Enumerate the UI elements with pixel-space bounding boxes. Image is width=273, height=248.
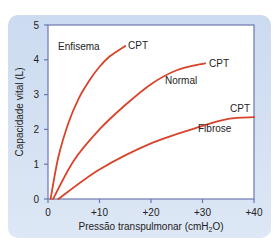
- y-axis: 012345: [33, 20, 48, 205]
- y-tick-label: 5: [33, 20, 39, 31]
- label-cpt-fibrose: CPT: [230, 103, 250, 114]
- y-tick-label: 2: [33, 124, 39, 135]
- label-cpt-enfisema: CPT: [128, 40, 148, 51]
- label-fibrose: Fibrose: [198, 123, 232, 134]
- y-tick-label: 1: [33, 159, 39, 170]
- y-tick-label: 3: [33, 89, 39, 100]
- x-tick-label: +30: [194, 207, 211, 218]
- label-enfisema: Enfisema: [58, 41, 100, 52]
- x-tick-label: +40: [246, 207, 263, 218]
- x-tick-label: 0: [45, 207, 51, 218]
- chart-svg: 012345 0+10+20+30+40 Enfisema CPT CPT No…: [0, 0, 273, 248]
- x-tick-label: +10: [91, 207, 108, 218]
- y-tick-label: 0: [33, 194, 39, 205]
- label-normal: Normal: [165, 75, 197, 86]
- x-axis: 0+10+20+30+40: [45, 199, 263, 218]
- y-axis-label: Capacidade vital (L): [14, 68, 25, 157]
- y-tick-label: 4: [33, 54, 39, 65]
- x-axis-label: Pressão transpulmonar (cmH2O): [78, 221, 223, 233]
- label-cpt-normal: CPT: [209, 58, 229, 69]
- x-tick-label: +20: [143, 207, 160, 218]
